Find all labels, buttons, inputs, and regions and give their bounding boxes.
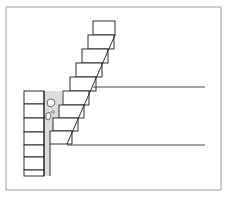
step-brick [70,77,96,91]
wall-brick [24,170,44,176]
left-wall [24,91,44,176]
step-brick [50,131,72,144]
wall-brick [24,118,44,132]
wall-brick [24,145,44,157]
rubble-pebble [52,111,55,114]
step-brick [82,49,108,63]
step-brick [53,118,78,131]
wall-brick [24,91,44,104]
wall-brick [24,157,44,170]
stepped-courses [50,21,115,144]
step-brick [76,63,102,77]
step-brick [93,21,115,35]
wall-brick [24,104,44,118]
diagram-canvas [0,0,226,198]
wall-brick [24,132,44,145]
step-brick [59,105,84,118]
